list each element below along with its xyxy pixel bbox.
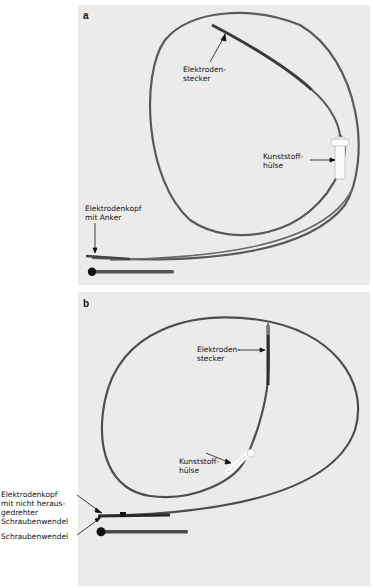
pacemaker-lead-a: [0, 0, 373, 290]
pacemaker-lead-b: [0, 290, 373, 588]
label-b-helix: Schraubenwendel: [1, 532, 68, 541]
label-a-plastic-sleeve: Kunststoff- hülse: [263, 152, 303, 170]
panel-a: a Elektroden- stecker Kunststoff- hülse …: [0, 0, 373, 290]
label-b-electrode-head: Elektrodenkopf mit nicht heraus- gedreht…: [1, 490, 68, 526]
label-a-electrode-head: Elektrodenkopf mit Anker: [85, 204, 141, 222]
label-b-electrode-connector: Elektroden- stecker: [197, 345, 240, 363]
label-a-electrode-connector: Elektroden- stecker: [183, 65, 226, 83]
panel-b: b Elektroden- stecker Kunststoff- hülse: [0, 290, 373, 588]
label-b-plastic-sleeve: Kunststoff- hülse: [179, 457, 219, 475]
